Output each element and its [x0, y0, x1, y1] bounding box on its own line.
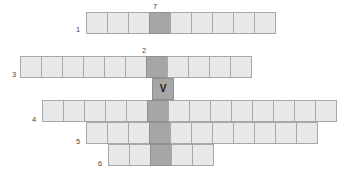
crossword-cell[interactable]: [84, 100, 106, 122]
label-2: 2: [142, 47, 146, 55]
crossword-cell[interactable]: [147, 100, 169, 122]
crossword-cell[interactable]: [191, 122, 213, 144]
crossword-cell[interactable]: [209, 56, 231, 78]
crossword-cell[interactable]: [212, 122, 234, 144]
crossword-cell[interactable]: [167, 56, 189, 78]
crossword-cell[interactable]: [107, 12, 129, 34]
crossword-cell[interactable]: [254, 12, 276, 34]
crossword-cell[interactable]: [86, 12, 108, 34]
crossword-cell[interactable]: [126, 100, 148, 122]
crossword-cell[interactable]: [192, 144, 214, 166]
crossword-cell[interactable]: [212, 12, 234, 34]
crossword-cell[interactable]: [315, 100, 337, 122]
crossword-cell[interactable]: [41, 56, 63, 78]
crossword-cell[interactable]: [20, 56, 42, 78]
crossword-cell[interactable]: [188, 56, 210, 78]
label-7: 7: [153, 3, 157, 11]
crossword-cell[interactable]: V: [152, 78, 174, 100]
label-5: 5: [76, 138, 80, 146]
crossword-cell[interactable]: [294, 100, 316, 122]
crossword-cell[interactable]: [128, 122, 150, 144]
label-3: 3: [12, 71, 16, 79]
crossword-cell[interactable]: [170, 12, 192, 34]
crossword-cell[interactable]: [125, 56, 147, 78]
crossword-cell[interactable]: [191, 12, 213, 34]
crossword-cell[interactable]: [168, 100, 190, 122]
crossword-cell[interactable]: [171, 144, 193, 166]
crossword-cell[interactable]: [146, 56, 168, 78]
crossword-cell[interactable]: [233, 122, 255, 144]
crossword-diagram: V 7123456: [0, 0, 361, 186]
crossword-cell[interactable]: [210, 100, 232, 122]
cell-letter: V: [153, 79, 173, 99]
crossword-cell[interactable]: [296, 122, 318, 144]
crossword-cell[interactable]: [230, 56, 252, 78]
crossword-cell[interactable]: [275, 122, 297, 144]
crossword-cell[interactable]: [231, 100, 253, 122]
crossword-cell[interactable]: [42, 100, 64, 122]
crossword-cell[interactable]: [273, 100, 295, 122]
crossword-cell[interactable]: [189, 100, 211, 122]
label-1: 1: [76, 26, 80, 34]
crossword-cell[interactable]: [104, 56, 126, 78]
crossword-cell[interactable]: [62, 56, 84, 78]
label-4: 4: [32, 116, 36, 124]
crossword-cell[interactable]: [150, 144, 172, 166]
crossword-cell[interactable]: [252, 100, 274, 122]
crossword-cell[interactable]: [170, 122, 192, 144]
crossword-cell[interactable]: [86, 122, 108, 144]
crossword-cell[interactable]: [83, 56, 105, 78]
crossword-cell[interactable]: [107, 122, 129, 144]
crossword-cell[interactable]: [105, 100, 127, 122]
crossword-cell[interactable]: [149, 12, 171, 34]
crossword-cell[interactable]: [129, 144, 151, 166]
label-6: 6: [98, 160, 102, 168]
crossword-cell[interactable]: [149, 122, 171, 144]
crossword-cell[interactable]: [108, 144, 130, 166]
crossword-cell[interactable]: [63, 100, 85, 122]
crossword-cell[interactable]: [254, 122, 276, 144]
crossword-cell[interactable]: [128, 12, 150, 34]
crossword-cell[interactable]: [233, 12, 255, 34]
